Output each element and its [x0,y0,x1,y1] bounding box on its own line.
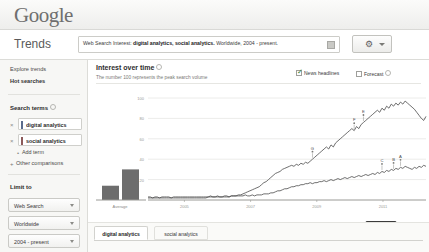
logo-bar: Google [0,0,429,30]
chevron-down-icon [70,222,74,225]
sidebar-divider-1 [8,94,80,95]
search-terms-heading: Search terms [10,104,56,111]
chevron-down-icon [379,43,385,46]
header-bar: Trends Web Search Interest: digital anal… [0,30,429,60]
svg-text:C: C [380,158,383,163]
add-term-bullet-icon: • [17,150,19,156]
svg-text:2007: 2007 [246,204,256,209]
section-divider [96,83,421,84]
svg-text:Average: Average [113,204,129,209]
svg-text:80: 80 [140,116,145,121]
sidebar-item-explore-trends[interactable]: Explore trends [10,66,46,72]
search-term-0-color-bar [21,121,23,129]
checkbox-forecast-label: Forecast [364,71,383,77]
checkbox-news-headlines-box[interactable] [296,70,302,76]
main-panel: Interest over time The number 100 repres… [88,60,429,252]
query-text: Web Search Interest: digital analytics, … [83,40,278,46]
remove-term-1-icon[interactable]: × [10,138,14,144]
svg-text:2009: 2009 [312,204,322,209]
svg-text:2005: 2005 [180,204,190,209]
svg-text:60: 60 [140,137,145,142]
query-prefix: Web Search Interest: [83,40,132,46]
google-trends-page: Google Trends Web Search Interest: digit… [0,0,429,252]
tab-digital-analytics-label: digital analytics [95,231,147,237]
search-term-1[interactable]: social analytics [18,134,82,146]
chevron-down-icon [70,204,74,207]
svg-text:100: 100 [137,96,144,101]
search-terms-heading-label: Search terms [10,105,48,111]
expand-icon[interactable]: + [10,161,14,167]
tabstrip-underline [94,240,423,241]
chevron-down-icon [70,240,74,243]
chart-svg: 10080604020 Average 2005200720092011 GFE… [90,88,429,218]
sidebar-item-hot-searches[interactable]: Hot searches [10,78,45,84]
checkbox-forecast-box[interactable] [356,71,362,77]
chart-series [148,101,426,198]
svg-text:A: A [399,154,402,159]
info-icon[interactable] [156,64,162,70]
tab-social-analytics-label: social analytics [155,231,207,237]
svg-text:F: F [353,117,356,122]
tab-digital-analytics[interactable]: digital analytics [94,226,148,240]
section-subtitle: The number 100 represents the peak searc… [96,75,207,80]
section-title: Interest over time [96,64,162,71]
filter-web-search[interactable]: Web Search [8,198,80,212]
search-term-1-color-bar [21,137,23,145]
other-comparisons-link[interactable]: Other comparisons [16,160,63,166]
section-title-label: Interest over time [96,64,154,71]
sidebar: Explore trends Hot searches Search terms… [0,60,88,252]
filter-region[interactable]: Worldwide [8,216,80,230]
info-icon[interactable] [385,70,391,76]
svg-text:20: 20 [140,178,145,183]
svg-text:2011: 2011 [379,204,388,209]
svg-text:E: E [362,109,365,114]
settings-button[interactable]: ⚙ [352,35,392,53]
query-display-bar[interactable]: Web Search Interest: digital analytics, … [78,36,340,53]
search-term-1-label: social analytics [26,138,81,144]
product-title: Trends [14,37,51,51]
info-icon[interactable] [50,104,56,110]
filter-web-search-label: Web Search [14,203,44,209]
checkbox-forecast[interactable]: Forecast [356,70,391,77]
filter-region-label: Worldwide [14,221,39,227]
search-term-0-label: digital analytics [26,122,81,128]
filter-time-range[interactable]: 2004 - present [8,234,80,248]
query-terms: digital analytics, social analytics. [133,40,215,46]
limit-to-heading: Limit to [10,184,32,190]
checkbox-news-headlines-label: News headlines [304,70,339,76]
series-tabstrip: digital analytics social analytics [88,222,429,252]
sidebar-divider-2 [8,174,80,175]
trends-chart[interactable]: 10080604020 Average 2005200720092011 GFE… [90,88,429,218]
filter-time-range-label: 2004 - present [14,239,49,245]
search-term-0[interactable]: digital analytics [18,118,82,130]
query-scope: Worldwide, 2004 - present. [216,40,278,46]
embed-icon[interactable] [327,41,335,49]
gear-icon: ⚙ [365,40,373,49]
chart-x-axis-labels: 2005200720092011 [180,200,388,209]
svg-text:B: B [392,157,395,162]
svg-text:40: 40 [140,157,145,162]
svg-text:G: G [311,146,314,151]
remove-term-0-icon[interactable]: × [10,122,14,128]
google-logo[interactable]: Google [14,3,73,28]
average-bars: Average [102,169,139,209]
add-term-button[interactable]: Add term [22,149,44,155]
checkbox-news-headlines[interactable]: News headlines [296,70,339,76]
tab-social-analytics[interactable]: social analytics [154,226,208,240]
